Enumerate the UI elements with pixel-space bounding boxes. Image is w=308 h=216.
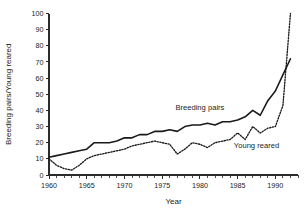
y-axis-tick-label: 40 [36, 106, 44, 115]
y-axis-tick-label: 90 [36, 25, 44, 34]
x-axis-ticks [49, 175, 298, 179]
x-axis-tick-label: 1960 [41, 181, 57, 190]
chart-figure: 0102030405060708090100 19601965197019751… [0, 0, 308, 216]
y-axis-tick-label: 100 [32, 9, 44, 18]
y-axis-title: Breeding pairs/Young reared [4, 43, 13, 145]
y-axis-tick-labels: 0102030405060708090100 [32, 9, 44, 180]
x-axis-tick-label: 1980 [192, 181, 208, 190]
y-axis-tick-label: 0 [40, 171, 44, 180]
annotation-young-reared: Young reared [234, 141, 279, 150]
y-axis-tick-label: 70 [36, 58, 44, 67]
annotation-breeding-pairs: Breeding pairs [175, 103, 224, 112]
y-axis-tick-label: 50 [36, 90, 44, 99]
x-axis-tick-label: 1975 [154, 181, 170, 190]
y-axis-tick-label: 10 [36, 154, 44, 163]
y-axis-tick-label: 60 [36, 74, 44, 83]
x-axis-tick-label: 1990 [267, 181, 283, 190]
chart-svg: 0102030405060708090100 19601965197019751… [0, 0, 308, 216]
y-axis-tick-label: 80 [36, 41, 44, 50]
x-axis-tick-label: 1970 [116, 181, 132, 190]
x-axis-title: Year [165, 197, 182, 206]
x-axis-tick-labels: 1960196519701975198019851990 [41, 181, 283, 190]
x-axis-tick-label: 1985 [230, 181, 246, 190]
y-axis-tick-label: 20 [36, 138, 44, 147]
x-axis-tick-label: 1965 [79, 181, 95, 190]
y-axis-tick-label: 30 [36, 122, 44, 131]
